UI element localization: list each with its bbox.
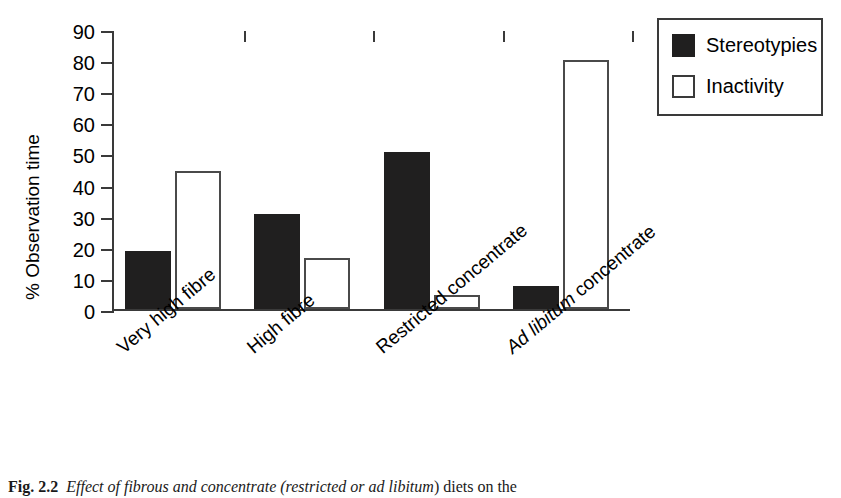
bar-stereotypies-1 (254, 214, 300, 309)
legend-label-inactivity: Inactivity (706, 75, 784, 98)
figure-caption: Fig. 2.2 Effect of fibrous and concentra… (8, 477, 828, 497)
y-axis-tick: 60 (101, 124, 114, 126)
y-axis-label: % Observation time (22, 134, 44, 300)
y-axis-tick-label: 30 (55, 207, 95, 231)
y-axis-tick-label: 70 (55, 82, 95, 106)
caption-figure-number: Fig. 2.2 (8, 478, 58, 495)
x-axis-tick (373, 31, 375, 42)
legend-label-stereotypies: Stereotypies (706, 34, 817, 57)
caption-text-before: Effect of fibrous and concentrate (restr… (66, 478, 368, 495)
legend-item-inactivity: Inactivity (672, 75, 784, 98)
y-axis-tick-label: 80 (55, 51, 95, 75)
legend-item-stereotypies: Stereotypies (672, 34, 817, 57)
y-axis-tick: 80 (101, 62, 114, 64)
caption-text-after: ) diets on the (434, 478, 517, 495)
x-axis-tick (244, 31, 246, 42)
y-axis-tick: 20 (101, 249, 114, 251)
bar-stereotypies-2 (384, 152, 430, 309)
y-axis-tick: 30 (101, 218, 114, 220)
caption-text-italic: ad libitum (369, 478, 434, 495)
x-axis-tick-end (632, 31, 634, 42)
y-axis-tick: 50 (101, 155, 114, 157)
plot-area: 0102030405060708090 (112, 31, 630, 311)
figure-container: % Observation time 0102030405060708090 V… (0, 0, 841, 498)
x-axis-tick (503, 31, 505, 42)
x-axis-labels: Very high fibreHigh fibreRestricted conc… (112, 313, 672, 463)
y-axis-tick-label: 0 (55, 300, 95, 324)
legend-swatch-stereotypies-icon (672, 34, 695, 57)
y-axis-tick: 90 (101, 31, 114, 33)
y-axis-tick-label: 40 (55, 176, 95, 200)
y-axis-tick-label: 10 (55, 269, 95, 293)
y-axis-tick-label: 50 (55, 144, 95, 168)
legend-swatch-inactivity-icon (672, 75, 695, 98)
chart-legend: Stereotypies Inactivity (657, 18, 823, 116)
y-axis-tick: 10 (101, 280, 114, 282)
y-axis-tick-label: 60 (55, 113, 95, 137)
y-axis-tick: 70 (101, 93, 114, 95)
y-axis-tick-label: 90 (55, 20, 95, 44)
y-axis-tick-label: 20 (55, 238, 95, 262)
y-axis-tick: 40 (101, 187, 114, 189)
